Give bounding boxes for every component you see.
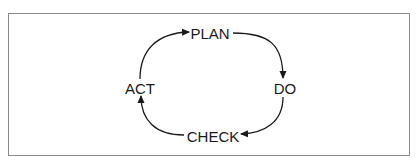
arrow-act-to-plan (140, 32, 189, 79)
node-do: DO (274, 81, 297, 96)
node-act: ACT (125, 81, 155, 96)
node-plan: PLAN (190, 26, 229, 41)
arrow-check-to-act (141, 96, 184, 135)
arrow-do-to-check (241, 97, 283, 134)
arrow-plan-to-do (233, 33, 283, 78)
node-check: CHECK (187, 129, 240, 144)
